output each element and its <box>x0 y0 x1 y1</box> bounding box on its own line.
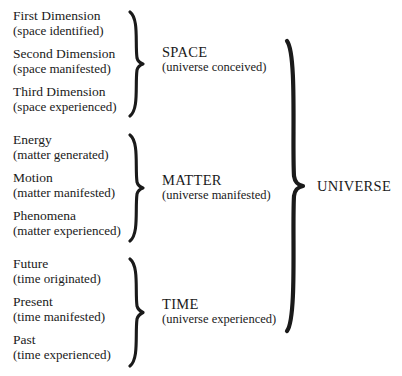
category-label: SPACE <box>162 44 266 60</box>
item-title: Past <box>13 332 133 347</box>
list-item: Second Dimension (space manifested) <box>13 46 133 76</box>
item-title: Second Dimension <box>13 46 133 61</box>
item-title: Future <box>13 256 133 271</box>
item-subtitle: (space identified) <box>13 23 133 38</box>
item-subtitle: (time experienced) <box>13 347 133 362</box>
curly-brace-right-icon <box>126 257 148 368</box>
curly-brace-right-icon <box>126 133 148 243</box>
group-space-items: First Dimension (space identified) Secon… <box>13 8 133 114</box>
group-matter-items: Energy (matter generated) Motion (matter… <box>13 132 133 238</box>
list-item: Past (time experienced) <box>13 332 133 362</box>
list-item: Future (time originated) <box>13 256 133 286</box>
item-title: Phenomena <box>13 208 133 223</box>
item-subtitle: (time originated) <box>13 271 133 286</box>
root-label: UNIVERSE <box>317 178 391 194</box>
category-subtitle: (universe experienced) <box>162 312 276 327</box>
category-label: TIME <box>162 296 276 312</box>
list-item: First Dimension (space identified) <box>13 8 133 38</box>
item-title: Third Dimension <box>13 84 133 99</box>
list-item: Motion (matter manifested) <box>13 170 133 200</box>
category-subtitle: (universe conceived) <box>162 60 266 75</box>
category-matter: MATTER (universe manifested) <box>162 172 271 203</box>
list-item: Energy (matter generated) <box>13 132 133 162</box>
item-title: Motion <box>13 170 133 185</box>
curly-brace-right-icon <box>281 38 311 334</box>
category-space: SPACE (universe conceived) <box>162 44 266 75</box>
item-subtitle: (matter generated) <box>13 147 133 162</box>
curly-brace-right-icon <box>126 10 148 118</box>
list-item: Third Dimension (space experienced) <box>13 84 133 114</box>
item-subtitle: (time manifested) <box>13 309 133 324</box>
category-label: MATTER <box>162 172 271 188</box>
list-item: Present (time manifested) <box>13 294 133 324</box>
category-subtitle: (universe manifested) <box>162 188 271 203</box>
diagram-canvas: First Dimension (space identified) Secon… <box>0 0 402 376</box>
item-subtitle: (space experienced) <box>13 99 133 114</box>
item-subtitle: (space manifested) <box>13 61 133 76</box>
list-item: Phenomena (matter experienced) <box>13 208 133 238</box>
item-subtitle: (matter experienced) <box>13 223 133 238</box>
item-title: Present <box>13 294 133 309</box>
group-time-items: Future (time originated) Present (time m… <box>13 256 133 362</box>
item-subtitle: (matter manifested) <box>13 185 133 200</box>
category-time: TIME (universe experienced) <box>162 296 276 327</box>
item-title: Energy <box>13 132 133 147</box>
item-title: First Dimension <box>13 8 133 23</box>
